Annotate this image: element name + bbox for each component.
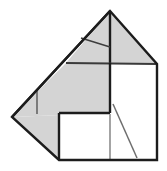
geometry-figure-svg [0, 0, 167, 171]
figure-canvas [0, 0, 167, 171]
edge-horizontal-fold [66, 63, 157, 64]
